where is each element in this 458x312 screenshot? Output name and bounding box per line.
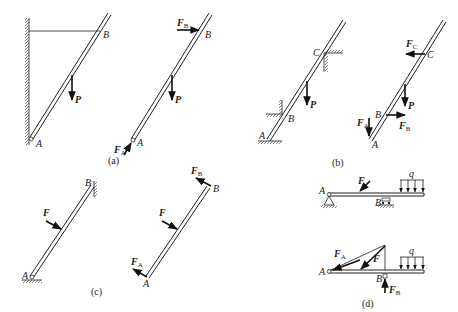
pin-A (327, 270, 331, 274)
load-F-arrow (46, 221, 61, 229)
caption-b: (b) (332, 157, 344, 169)
pin-A (30, 275, 34, 279)
force-FB-label: FB (388, 284, 401, 297)
force-FA-label: FA (130, 256, 143, 269)
point-A-label: A (21, 270, 29, 281)
point-A-label: A (258, 130, 266, 141)
beam (328, 193, 424, 196)
force-FB-label: FB (176, 17, 189, 30)
distributed-load-q (400, 180, 424, 192)
point-B-label: B (213, 183, 219, 194)
point-A-label: A (136, 137, 144, 148)
force-FA-arrow (133, 269, 147, 277)
panel-c-fbd: FB B F FA A (130, 165, 219, 289)
ground-hatch-A (321, 205, 337, 208)
load-q-label: q (409, 168, 414, 179)
distributed-load-q (400, 257, 424, 269)
wall-hatch (25, 18, 29, 145)
load-P-label: P (408, 100, 415, 111)
statics-figure: P B A FB B P FA A (a) A (0, 0, 458, 312)
corner-support-C (324, 50, 343, 72)
load-q-label: q (409, 245, 414, 256)
load-F-label: F (357, 175, 365, 186)
point-C-label: C (427, 49, 434, 60)
point-B-label: B (375, 109, 381, 120)
force-FB-label: FB (398, 120, 411, 133)
point-A-label: A (142, 278, 150, 289)
pin-support-A (324, 196, 334, 205)
caption-c: (c) (91, 286, 102, 298)
corner-support-B (266, 100, 283, 117)
point-A-label: A (318, 266, 326, 277)
load-F-label: F (372, 253, 380, 264)
bar-AB (30, 13, 111, 139)
load-F-arrow (162, 221, 177, 229)
load-P-label: P (175, 94, 182, 105)
point-B-label: B (376, 273, 382, 284)
panel-d-beam: A B F q (318, 168, 424, 208)
point-B-label: B (375, 197, 381, 208)
panel-c-structure: A B F (21, 177, 97, 283)
force-FA-label: FA (356, 117, 369, 130)
pin-A (131, 138, 135, 142)
pin-A (29, 137, 33, 141)
panel-a-structure: P B A (25, 13, 111, 149)
panel-b-fbd: FC C P FA A FB B (356, 20, 446, 150)
point-B-label: B (85, 177, 91, 188)
point-C-label: C (313, 47, 320, 58)
force-FA-label: FA (333, 248, 346, 261)
point-A-label: A (35, 138, 43, 149)
force-FB-arrow (196, 178, 211, 186)
point-A-label: A (371, 139, 379, 150)
load-F-label: F (42, 207, 50, 218)
caption-d: (d) (362, 298, 374, 310)
force-FC-label: FC (405, 38, 418, 51)
point-B-label: B (288, 113, 294, 124)
bar-ABC (267, 20, 346, 141)
caption-a: (a) (108, 155, 119, 167)
wall-hatch-B (94, 181, 97, 197)
point-B-label: B (205, 29, 211, 40)
bar-AB (30, 185, 94, 278)
roller-B (383, 274, 387, 278)
panel-a-fbd: FB B P FA A (113, 13, 212, 157)
load-P-label: P (75, 94, 82, 105)
force-FA-arrow (333, 260, 360, 270)
point-B-label: B (103, 29, 109, 40)
point-A-label: A (318, 185, 326, 196)
load-P-label: P (310, 99, 317, 110)
ground-hatch-A (258, 141, 282, 144)
panel-d-fbd: A FA F FB B q (318, 245, 424, 297)
bar-AB (146, 186, 210, 278)
panel-b-structure: A B C P (258, 20, 346, 144)
force-FB-label: FB (190, 165, 203, 178)
load-F-label: F (158, 207, 166, 218)
